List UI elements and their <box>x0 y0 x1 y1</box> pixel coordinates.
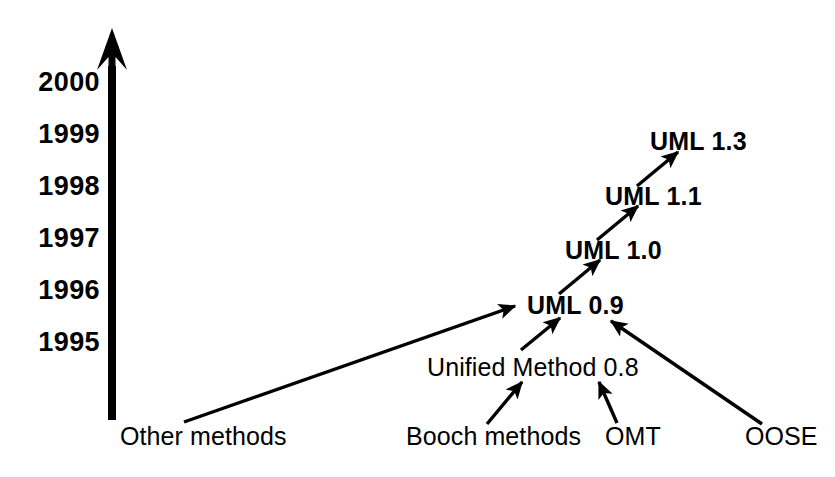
year-label-1999: 1999 <box>0 121 100 148</box>
arrow-uml09-to-uml10 <box>559 260 600 294</box>
arrow-omt-to-unified <box>599 382 617 423</box>
arrow-unified-to-uml09 <box>521 318 560 350</box>
node-label-uml11: UML 1.1 <box>605 184 702 209</box>
node-label-omt: OMT <box>605 424 661 449</box>
year-label-1995: 1995 <box>0 329 100 356</box>
year-label-1998: 1998 <box>0 173 100 200</box>
node-label-unified: Unified Method 0.8 <box>427 355 639 380</box>
uml-history-diagram: 200019991998199719961995 UML 1.3UML 1.1U… <box>0 0 835 477</box>
time-axis-arrowhead-icon <box>97 28 127 72</box>
year-label-1996: 1996 <box>0 277 100 304</box>
node-label-uml13: UML 1.3 <box>650 129 747 154</box>
arrow-booch-to-unified <box>487 382 522 424</box>
diagram-vector-layer <box>0 0 835 477</box>
node-label-oose: OOSE <box>745 424 818 449</box>
year-label-1997: 1997 <box>0 225 100 252</box>
time-axis-shaft <box>108 66 116 420</box>
node-label-other: Other methods <box>120 424 287 449</box>
node-label-uml09: UML 0.9 <box>527 293 624 318</box>
node-label-uml10: UML 1.0 <box>565 238 662 263</box>
time-axis-group <box>97 28 127 420</box>
node-label-booch: Booch methods <box>406 424 581 449</box>
year-label-2000: 2000 <box>0 69 100 96</box>
